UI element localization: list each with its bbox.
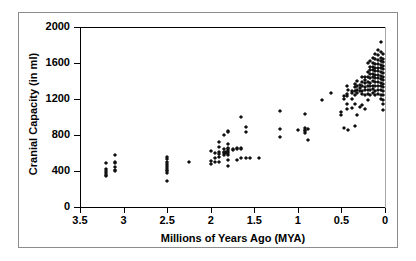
scatter-point (306, 138, 310, 142)
scatter-point (296, 127, 300, 131)
y-tick-label: 2000 (46, 21, 70, 32)
y-tick-label: 1200 (46, 93, 70, 104)
scatter-point (104, 174, 108, 178)
scatter-point (303, 112, 307, 116)
x-tick-label: 1 (278, 215, 318, 226)
scatter-point (379, 40, 383, 44)
scatter-point (248, 156, 252, 160)
scatter-point (217, 159, 221, 163)
scatter-point (257, 156, 261, 160)
scatter-point (239, 156, 243, 160)
scatter-point (217, 154, 221, 158)
x-tick-label: 1.5 (234, 215, 274, 226)
scatter-point (306, 127, 310, 131)
scatter-point (113, 169, 117, 173)
scatter-point (345, 101, 349, 105)
scatter-point (381, 108, 385, 112)
scatter-point (352, 101, 356, 105)
y-axis-title: Cranial Capacity (in ml) (27, 34, 39, 194)
scatter-point (381, 52, 385, 56)
y-tick-label: 400 (52, 165, 70, 176)
scatter-point (278, 127, 282, 131)
x-tick-mark (167, 208, 168, 213)
scatter-point (113, 153, 117, 157)
scatter-point (355, 113, 359, 117)
scatter-point (239, 115, 243, 119)
scatter-point (235, 158, 239, 162)
x-tick-mark (298, 208, 299, 213)
scatter-point (165, 179, 169, 183)
plot-axis-bottom (80, 207, 386, 208)
x-tick-label: 2 (191, 215, 231, 226)
x-tick-mark (124, 208, 125, 213)
scatter-point (381, 102, 385, 106)
x-tick-label: 3.5 (60, 215, 100, 226)
scatter-point (243, 130, 247, 134)
y-tick-label: 0 (64, 201, 70, 212)
scatter-point (165, 171, 169, 175)
plot-axis-right (385, 27, 386, 208)
scatter-point (303, 131, 307, 135)
x-tick-mark (211, 208, 212, 213)
x-tick-label: 0 (365, 215, 405, 226)
scatter-point (243, 125, 247, 129)
scatter-point (222, 132, 226, 136)
scatter-point (217, 140, 221, 144)
x-tick-label: 3 (104, 215, 144, 226)
scatter-point (352, 124, 356, 128)
x-tick-mark (80, 208, 81, 213)
y-tick-label: 1600 (46, 57, 70, 68)
scatter-plot-area (80, 27, 385, 207)
scatter-point (226, 158, 230, 162)
scatter-point (350, 106, 354, 110)
scatter-point (278, 109, 282, 113)
x-tick-mark (254, 208, 255, 213)
x-tick-label: 0.5 (321, 215, 361, 226)
x-tick-mark (385, 208, 386, 213)
scatter-point (339, 113, 343, 117)
scatter-point (363, 107, 367, 111)
x-axis-title: Millions of Years Ago (MYA) (80, 232, 386, 244)
x-tick-mark (341, 208, 342, 213)
scatter-point (187, 160, 191, 164)
scatter-point (346, 127, 350, 131)
chart-figure: 0400800120016002000 3.532.521.510.50 Mil… (0, 0, 416, 261)
scatter-point (329, 91, 333, 95)
y-tick-label: 800 (52, 129, 70, 140)
scatter-point (104, 161, 108, 165)
scatter-point (320, 98, 324, 102)
scatter-point (365, 98, 369, 102)
x-tick-label: 2.5 (147, 215, 187, 226)
scatter-point (226, 130, 230, 134)
scatter-point (226, 164, 230, 168)
scatter-point (278, 135, 282, 139)
scatter-point (345, 107, 349, 111)
scatter-point (350, 97, 354, 101)
